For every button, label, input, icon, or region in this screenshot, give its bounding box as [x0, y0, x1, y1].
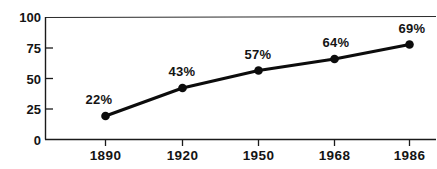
- y-tick-label-0: 0: [34, 133, 41, 148]
- plot-top-border: [46, 17, 437, 18]
- line-chart: 100 75 50 25 0 1890 1920 1950 1968 1986: [0, 0, 437, 169]
- data-label-1890: 22%: [86, 92, 113, 107]
- x-tick-label-1950: 1950: [243, 148, 275, 163]
- data-label-1920: 43%: [169, 64, 196, 79]
- chart-canvas: 100 75 50 25 0 1890 1920 1950 1968 1986: [0, 0, 437, 169]
- y-tick-label-75: 75: [27, 41, 41, 56]
- data-label-1968: 64%: [323, 35, 350, 50]
- y-tick-label-100: 100: [19, 10, 41, 25]
- x-tick-label-1968: 1968: [319, 148, 351, 163]
- y-tick-label-25: 25: [27, 102, 41, 117]
- data-point-1890: [101, 112, 110, 121]
- y-tick-label-50: 50: [27, 72, 41, 87]
- data-label-1986: 69%: [399, 21, 426, 36]
- y-axis-tick-labels: 100 75 50 25 0: [19, 10, 41, 148]
- x-tick-label-1890: 1890: [90, 148, 122, 163]
- x-tick-label-1986: 1986: [394, 148, 426, 163]
- x-tick-label-1920: 1920: [167, 148, 199, 163]
- data-point-1950: [254, 66, 263, 75]
- data-label-1950: 57%: [245, 47, 272, 62]
- x-axis-tick-labels: 1890 1920 1950 1968 1986: [90, 148, 426, 163]
- data-point-labels: 22% 43% 57% 64% 69%: [86, 21, 426, 107]
- data-point-1920: [178, 84, 187, 93]
- data-point-1968: [330, 55, 339, 64]
- y-axis-ticks: [46, 48, 54, 109]
- data-point-1986: [405, 40, 414, 49]
- x-axis-ticks: [106, 140, 410, 147]
